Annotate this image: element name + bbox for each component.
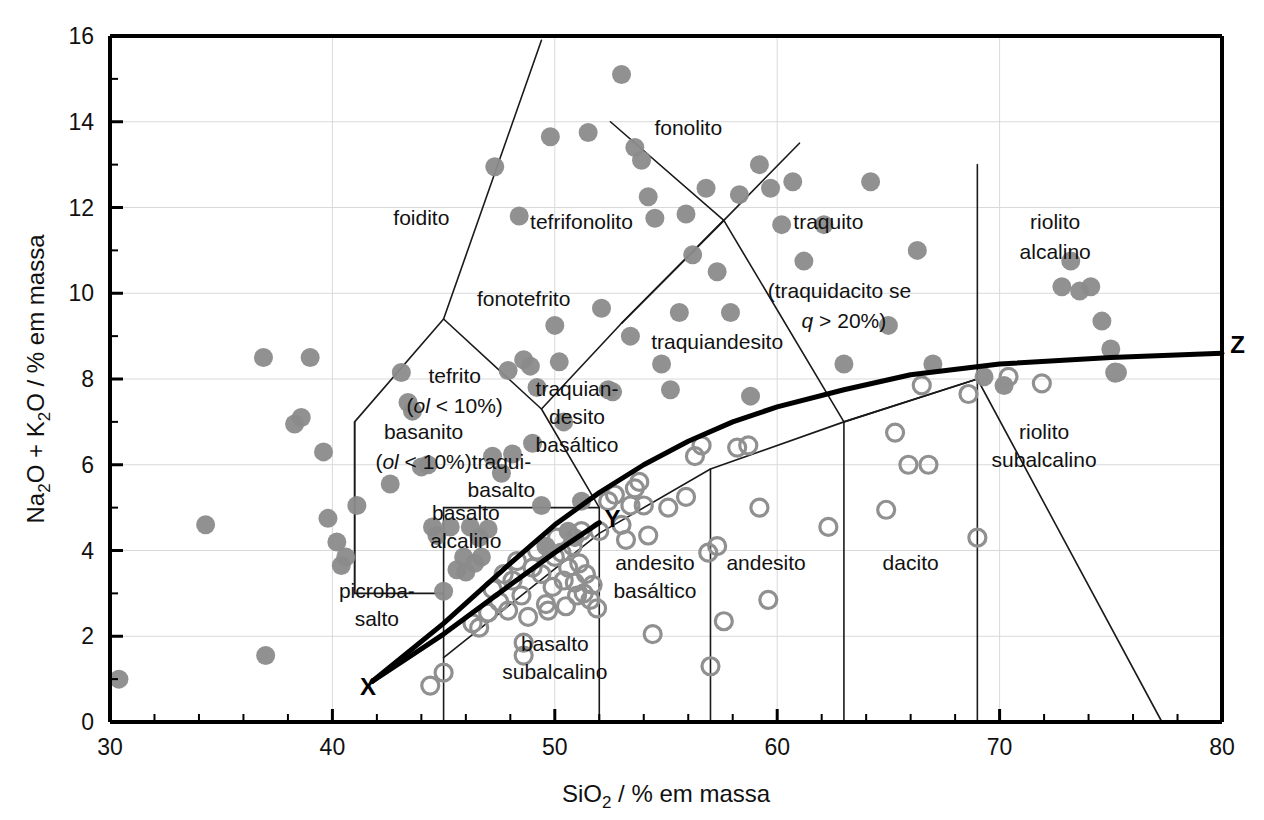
data-point-filled [550,352,569,371]
data-point-filled [254,348,273,367]
data-point-filled [579,123,598,142]
data-point-filled [485,157,504,176]
data-point-filled [741,387,760,406]
y-title-subscript: 2 [35,412,54,421]
field-label-riolito-subalcalino2: subalcalino [992,448,1097,471]
field-label-traquiandesito-basaltico3: basáltico [536,433,619,456]
field-label-dacito: dacito [883,551,939,574]
data-point-filled [392,363,411,382]
data-point-filled [761,179,780,198]
tas-diagram-figure: foiditotefrifonolitofonolitotraquito(tra… [0,0,1264,820]
data-point-filled [645,209,664,228]
data-point-filled [621,327,640,346]
data-point-filled [730,185,749,204]
data-point-filled [1052,277,1071,296]
data-point-filled [908,241,927,260]
x-title-subscript: 2 [602,793,611,812]
data-point-filled [652,354,671,373]
data-point-filled [1092,312,1111,331]
field-label-traquidacito-nota: (traquidacito se [768,279,912,302]
data-point-filled [794,252,813,271]
field-label-traquidacito-nota2: q > 20%) [802,309,887,332]
field-label-traquibasalto: traqui- [472,450,532,473]
data-point-filled [670,303,689,322]
data-point-filled [612,65,631,84]
field-label-fonolito: fonolito [654,116,722,139]
data-point-filled [861,172,880,191]
xtick-label: 50 [542,734,568,760]
field-label-traquito: traquito [793,210,863,233]
field-label-riolito-alcalino2: alcalino [1020,240,1091,263]
curve-marker-X: X [360,673,376,700]
figure-background [0,0,1264,820]
field-label-tefrito-ol: (ol < 10%) [407,394,503,417]
data-point-filled [721,303,740,322]
data-point-filled [521,357,540,376]
data-point-filled [661,380,680,399]
field-label-tefrifonolito: tefrifonolito [530,210,633,233]
label-part: ( [375,450,382,473]
field-label-picrobasalto2: salto [355,607,399,630]
ytick-label: 10 [68,280,94,306]
data-point-filled [632,151,651,170]
field-label-basanito: basanito [384,420,463,443]
data-point-filled [499,361,518,380]
ytick-label: 2 [81,623,94,649]
label-symbol: ol [382,450,400,473]
field-label-basalto-subalcalino: basalto [521,632,589,655]
field-label-traquiandesito: traquiandesito [651,330,783,353]
ytick-label: 14 [68,109,94,135]
chart-canvas: foiditotefrifonolitofonolitotraquito(tra… [0,0,1264,820]
data-point-filled [510,207,529,226]
y-title-subscript: 2 [35,483,54,492]
x-title-part: SiO [562,780,602,807]
data-point-filled [750,155,769,174]
xtick-label: 80 [1209,734,1235,760]
data-point-filled [772,215,791,234]
data-point-filled [639,187,658,206]
data-point-filled [347,496,366,515]
xtick-label: 30 [97,734,123,760]
curve-marker-Z: Z [1230,331,1245,358]
label-part: < 10%) [399,450,472,473]
y-title-part: O + K [22,421,49,483]
label-part: < 10%) [430,394,503,417]
ytick-label: 16 [68,23,94,49]
data-point-filled [975,367,994,386]
field-label-foidito: foidito [393,206,449,229]
y-title-part: Na [22,492,49,523]
data-point-filled [301,348,320,367]
ytick-label: 4 [81,538,94,564]
field-label-riolito-alcalino: riolito [1030,210,1080,233]
ytick-label: 6 [81,452,94,478]
data-point-filled [708,262,727,281]
field-label-riolito-subalcalino: riolito [1019,420,1069,443]
data-point-filled [336,547,355,566]
label-part: ( [407,394,414,417]
field-label-basanito-ol: (ol < 10%) [375,450,471,473]
data-point-filled [545,316,564,335]
data-point-filled [318,509,337,528]
data-point-filled [783,172,802,191]
field-label-basalto-alcalino: basalto [432,501,500,524]
data-point-filled [541,127,560,146]
xtick-label: 60 [764,734,790,760]
ytick-label: 8 [81,366,94,392]
field-label-andesito-basaltico2: basáltico [613,579,696,602]
field-label-traquibasalto2: basalto [468,478,536,501]
field-label-picrobasalto: picroba- [339,579,415,602]
field-label-tefrito: tefrito [428,364,481,387]
data-point-filled [683,245,702,264]
data-point-filled [697,179,716,198]
label-symbol: ol [414,394,432,417]
field-label-fonotefrito: fonotefrito [477,287,570,310]
field-label-andesito: andesito [726,551,805,574]
ytick-label: 0 [81,709,94,735]
data-point-filled [592,299,611,318]
data-point-filled [381,475,400,494]
xtick-label: 70 [987,734,1013,760]
curve-marker-Y: Y [605,505,621,532]
x-title-part: / % em massa [611,780,770,807]
data-point-filled [196,515,215,534]
field-label-basalto-alcalino2: alcalino [430,529,501,552]
